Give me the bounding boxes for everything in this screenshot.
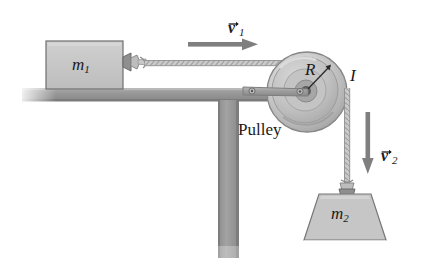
pulley-system-diagram: m1 m2 R I Pulley v 1 v 2 [0, 0, 423, 258]
rope-vertical [345, 88, 350, 184]
radius-label: R [305, 61, 315, 78]
mass1-symbol: m [72, 55, 84, 74]
velocity1-subscript: 1 [239, 26, 245, 38]
pulley-label: Pulley [238, 121, 281, 138]
velocity2-label: v 2 [381, 148, 398, 166]
pulley-bracket [243, 87, 308, 96]
rope-knot-m1 [123, 53, 146, 71]
velocity2-symbol: v [381, 147, 392, 164]
vector-accent-icon [228, 19, 239, 27]
table-post [218, 100, 239, 258]
velocity1-symbol: v [228, 19, 239, 36]
inertia-label: I [350, 67, 356, 84]
velocity1-label: v 1 [228, 20, 245, 38]
mass2-symbol: m [331, 204, 343, 223]
vector-accent-icon [381, 147, 392, 155]
diagram-canvas [0, 0, 423, 258]
mass2-subscript: 2 [343, 212, 349, 224]
mass1-label: m1 [72, 56, 90, 75]
mass1-subscript: 1 [84, 63, 90, 75]
velocity-arrow-v1 [188, 39, 258, 51]
velocity2-subscript: 2 [392, 154, 398, 166]
velocity-arrow-v2 [362, 112, 374, 174]
mass2-label: m2 [331, 205, 349, 224]
